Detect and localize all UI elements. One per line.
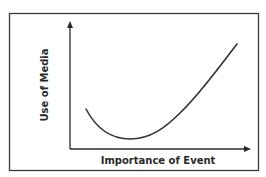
x-axis-label: Importance of Event (101, 155, 216, 166)
media-use-curve (86, 44, 237, 139)
diagram-canvas: Importance of Event Use of Media (0, 0, 266, 177)
x-axis-arrow-icon (244, 146, 251, 152)
y-axis-arrow-icon (67, 21, 73, 28)
diagram-figure: Importance of Event Use of Media (0, 0, 266, 177)
y-axis-label: Use of Media (39, 48, 50, 121)
